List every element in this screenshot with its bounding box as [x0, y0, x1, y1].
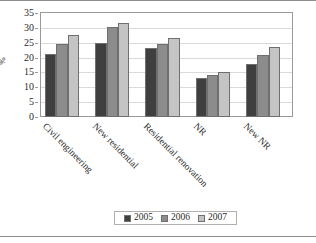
y-tick-label: 35 [24, 8, 34, 18]
y-tick-label: 15 [24, 67, 34, 77]
legend-label: 2006 [171, 213, 190, 223]
page-rule-bottom [0, 236, 316, 237]
bar-group [145, 13, 179, 117]
bar [145, 48, 156, 117]
x-tick-label: New NR [242, 121, 273, 152]
bar-group [246, 13, 280, 117]
bar [45, 54, 56, 117]
y-tick-label: 5 [29, 97, 34, 107]
legend-swatch-icon [124, 215, 131, 222]
bar [56, 44, 67, 117]
bar [118, 23, 129, 118]
bars-layer [41, 13, 292, 117]
y-tick-label: 30 [24, 23, 34, 33]
legend-entry: 2005 [124, 213, 153, 223]
legend-swatch-icon [198, 215, 205, 222]
bar-group [95, 13, 129, 117]
y-axis-title: % [0, 57, 7, 65]
bar-chart-figure: % 05101520253035 Civil engineeringNew re… [0, 0, 316, 243]
legend-label: 2005 [134, 213, 153, 223]
legend-entry: 2006 [161, 213, 190, 223]
y-tick-label: 10 [24, 82, 34, 92]
x-tick-label: New residential [91, 121, 140, 170]
bar-group [196, 13, 230, 117]
legend-swatch-icon [161, 215, 168, 222]
x-axis-labels: Civil engineeringNew residentialResident… [0, 117, 316, 207]
bar [207, 75, 218, 117]
bar [157, 44, 168, 117]
bar [269, 47, 280, 117]
bar [218, 72, 229, 118]
y-tick-mark [35, 13, 38, 14]
y-tick-mark [35, 72, 38, 73]
bar [257, 55, 268, 117]
x-tick-label: Civil engineering [41, 121, 95, 175]
y-tick-mark [35, 102, 38, 103]
bar [196, 78, 207, 117]
y-tick-mark [35, 58, 38, 59]
y-tick-mark [35, 43, 38, 44]
chart-legend: 200520062007 [114, 211, 237, 225]
bar [95, 43, 106, 117]
bar [246, 64, 257, 117]
page-rule-top [0, 0, 316, 1]
y-tick-mark [35, 28, 38, 29]
legend-entry: 2007 [198, 213, 227, 223]
bar [107, 27, 118, 117]
y-tick-label: 20 [24, 53, 34, 63]
x-tick-label: NR [192, 121, 208, 137]
y-tick-label: 25 [24, 38, 34, 48]
bar [168, 38, 179, 117]
bar [68, 35, 79, 117]
y-tick-mark [35, 87, 38, 88]
legend-label: 2007 [208, 213, 227, 223]
y-axis-ticks: 05101520253035 [14, 12, 38, 117]
bar-group [45, 13, 79, 117]
